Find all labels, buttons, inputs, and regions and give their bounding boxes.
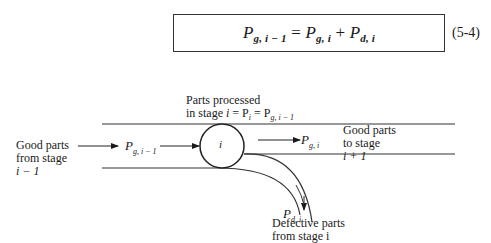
input-label: Good parts from stage i − 1 <box>16 139 69 178</box>
processed-eq2: = P <box>251 106 270 120</box>
input-symbol-sub: g, i − 1 <box>133 147 157 156</box>
output-symbol: Pg, i <box>301 132 319 150</box>
processed-eq1: = P <box>229 106 248 120</box>
processed-sub2: g, i − 1 <box>270 113 294 122</box>
stage-label: i <box>219 138 222 150</box>
processed-prefix: in stage <box>186 106 226 120</box>
defect-label: Defective parts from stage i <box>272 217 345 243</box>
processed-line2: in stage i = Pi = Pg, i − 1 <box>186 107 294 124</box>
processed-label: Parts processed in stage i = Pi = Pg, i … <box>186 94 294 124</box>
output-symbol-base: P <box>301 132 309 147</box>
output-label-line3: i + 1 <box>343 150 396 163</box>
input-label-line3: i − 1 <box>16 165 69 178</box>
output-label: Good parts to stage i + 1 <box>343 124 396 163</box>
defect-inner-curve <box>244 154 312 222</box>
input-symbol-base: P <box>125 138 133 153</box>
defect-label-line2: from stage i <box>272 230 345 243</box>
input-symbol: Pg, i − 1 <box>125 138 157 156</box>
output-symbol-sub: g, i <box>309 141 319 150</box>
